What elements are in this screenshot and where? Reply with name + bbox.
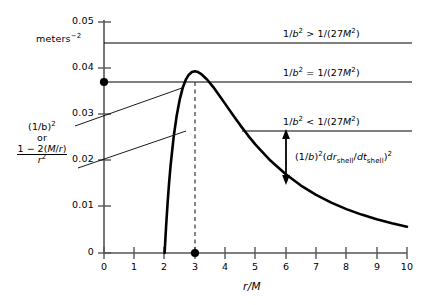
left-label-or: or xyxy=(6,133,78,143)
x-tick-label-5: 5 xyxy=(245,262,265,272)
annot-gap-sub1: shell xyxy=(337,156,354,165)
annotation-above-critical: 1/b2 > 1/(27M2) xyxy=(283,29,360,39)
annot-above-rel: > xyxy=(303,28,317,39)
x-tick-label-0: 0 xyxy=(94,262,114,272)
annot-below-c: 1/(27 xyxy=(317,116,343,127)
y-tick-label-1: 0.04 xyxy=(56,62,94,72)
x-tick-label-4: 4 xyxy=(215,262,235,272)
annot-crit-rel: = xyxy=(303,67,317,78)
marker-axis-critical xyxy=(100,78,108,86)
x-tick-label-6: 6 xyxy=(276,262,296,272)
x-tick-label-7: 7 xyxy=(306,262,326,272)
x-tick-label-10: 10 xyxy=(396,262,418,272)
annot-gap-p1: (1/ xyxy=(295,151,308,162)
annotation-critical: 1/b2 = 1/(27M2) xyxy=(283,68,360,78)
annot-below-rel: < xyxy=(303,116,317,127)
y-tick-label-2: 0.03 xyxy=(56,108,94,118)
y-axis-unit-base: meters xyxy=(36,33,71,44)
y-axis-unit-exponent: −2 xyxy=(71,31,82,40)
left-label-fraction: 1 − 2(M/r) r2 xyxy=(6,144,78,165)
x-tick-label-3: 3 xyxy=(185,262,205,272)
annot-gap-sub2: shell xyxy=(367,156,384,165)
annot-above-c: 1/(27 xyxy=(317,28,343,39)
x-tick-label-8: 8 xyxy=(336,262,356,272)
y-tick-label-5: 0 xyxy=(56,247,94,257)
left-label-fraction-denominator: r2 xyxy=(17,155,68,165)
annotation-below-critical: 1/b2 < 1/(27M2) xyxy=(283,117,360,127)
frac-den-exp: 2 xyxy=(42,152,46,161)
annotation-gap-expression: (1/b)2(drshell/dtshell)2 xyxy=(295,152,392,162)
gap-double-arrow xyxy=(282,129,290,185)
annot-gap-dt: dt xyxy=(357,151,367,162)
x-axis-title: r/M xyxy=(243,281,261,292)
x-tick-label-1: 1 xyxy=(124,262,144,272)
annot-gap-dr: dr xyxy=(327,151,337,162)
chart-figure: 0.05 0.04 0.03 0.02 0.01 0 meters−2 0 1 … xyxy=(0,0,422,305)
y-axis-unit-label: meters−2 xyxy=(36,34,81,44)
frac-num-e: ) xyxy=(63,143,67,154)
x-axis-title-denominator: M xyxy=(251,280,260,292)
left-label-line1-base: (1/b) xyxy=(28,121,51,132)
x-tick-label-9: 9 xyxy=(367,262,387,272)
left-label-line1: (1/b)2 xyxy=(6,122,78,132)
marker-photon-sphere xyxy=(191,249,199,257)
annot-below-close: ) xyxy=(356,116,360,127)
frac-num-b: M xyxy=(47,143,55,154)
annot-above-close: ) xyxy=(356,28,360,39)
left-axis-expression-label: (1/b)2 or 1 − 2(M/r) r2 xyxy=(6,122,78,165)
x-tick-label-2: 2 xyxy=(154,262,174,272)
annot-gap-exp2: 2 xyxy=(388,149,393,158)
y-tick-label-0: 0.05 xyxy=(56,16,94,26)
annot-crit-c: 1/(27 xyxy=(317,67,343,78)
annot-crit-close: ) xyxy=(356,67,360,78)
y-tick-label-4: 0.01 xyxy=(56,200,94,210)
left-label-line1-exponent: 2 xyxy=(51,119,56,128)
